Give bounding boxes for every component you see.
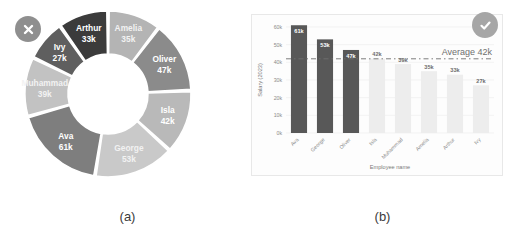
donut-slice-value: 42k — [161, 116, 175, 126]
y-axis-tick-label: 0k — [277, 130, 283, 136]
x-axis-category-label: Ivy — [473, 136, 482, 145]
bar — [369, 59, 385, 133]
bar-value-label: 35k — [424, 64, 434, 70]
bar — [447, 75, 463, 133]
x-axis-title: Employee name — [370, 164, 410, 170]
donut-slice-value: 35k — [121, 34, 135, 44]
x-axis-category-label: Oliver — [338, 136, 352, 150]
bar-chart-card: 0k10k20k30k40k50k60k 61k53k47k42k39k35k3… — [251, 14, 503, 176]
x-axis-category-label: George — [309, 136, 326, 153]
bar-value-label: 47k — [346, 53, 356, 59]
bar-value-label: 33k — [450, 67, 460, 73]
y-axis-title: Salary (2023) — [257, 63, 263, 97]
panel-a-caption: (a) — [0, 209, 255, 224]
donut-slice-value: 53k — [122, 154, 136, 164]
panel-b-bars: 0k10k20k30k40k50k60k 61k53k47k42k39k35k3… — [255, 0, 510, 230]
y-axis-tick-label: 10k — [274, 112, 283, 118]
y-axis-tick-label: 20k — [274, 95, 283, 101]
x-circle-icon — [15, 16, 41, 42]
x-axis-category-label: Muhammad — [380, 136, 404, 160]
donut-slice-name: Isla — [161, 105, 175, 115]
donut-slice-name: Oliver — [152, 54, 176, 64]
x-axis-category-label: Arthur — [441, 136, 455, 150]
donut-slice-value: 33k — [82, 34, 96, 44]
check-circle-icon — [472, 12, 498, 38]
x-axis-category-label: Ava — [289, 136, 300, 147]
bar-value-label: 42k — [372, 51, 382, 57]
donut-slice-name: Ava — [58, 131, 73, 141]
x-axis-category-label: Isla — [368, 136, 378, 146]
panel-a-donut: Amelia35kOliver47kIsla42kGeorge53kAva61k… — [0, 0, 255, 230]
bar-value-label: 39k — [398, 57, 408, 63]
y-axis-tick-label: 40k — [274, 59, 283, 65]
donut-slice-name: Ivy — [54, 42, 66, 52]
average-reference-label: Average 42k — [442, 47, 493, 57]
donut-slice-value: 27k — [53, 53, 67, 63]
donut-slice-name: Amelia — [115, 23, 143, 33]
figure-container: Amelia35kOliver47kIsla42kGeorge53kAva61k… — [0, 0, 510, 230]
x-axis-category-label: Amelia — [414, 136, 430, 152]
bar-y-axis-ticks: 0k10k20k30k40k50k60k — [274, 24, 283, 136]
bar — [291, 25, 307, 133]
bar — [473, 85, 489, 133]
donut-slice-value: 39k — [38, 89, 52, 99]
donut-svg: Amelia35kOliver47kIsla42kGeorge53kAva61k… — [13, 6, 203, 186]
donut-slice-value: 47k — [157, 65, 171, 75]
donut-slice-name: Arthur — [76, 23, 102, 33]
y-axis-tick-label: 30k — [274, 77, 283, 83]
donut-slice-name: Muhammad — [21, 78, 68, 88]
bar — [343, 50, 359, 133]
bar-value-label: 27k — [476, 78, 486, 84]
donut-slice-name: George — [114, 143, 144, 153]
bar-value-label: 53k — [320, 42, 330, 48]
bar-value-label: 61k — [294, 28, 304, 34]
y-axis-tick-label: 50k — [274, 42, 283, 48]
donut-chart: Amelia35kOliver47kIsla42kGeorge53kAva61k… — [13, 6, 203, 186]
donut-slice-value: 61k — [59, 142, 73, 152]
panel-b-caption: (b) — [255, 209, 510, 224]
y-axis-tick-label: 60k — [274, 24, 283, 30]
bar — [421, 71, 437, 133]
bar — [317, 39, 333, 133]
bar-category-label-group: AvaGeorgeOliverIslaMuhammadAmeliaArthurI… — [289, 136, 482, 160]
bar-chart-svg: 0k10k20k30k40k50k60k 61k53k47k42k39k35k3… — [252, 15, 502, 175]
bar — [395, 64, 411, 133]
